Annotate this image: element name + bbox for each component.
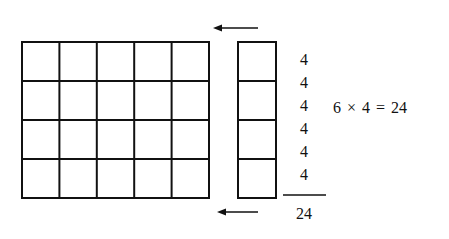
addend-value: 4 (300, 98, 308, 114)
addend-value: 4 (300, 121, 308, 137)
diagram-canvas (0, 0, 449, 239)
column-strip (238, 42, 276, 198)
equation: 6 × 4 = 24 (333, 100, 407, 116)
grid-5x4 (22, 42, 209, 198)
sum-value: 24 (296, 206, 312, 222)
top-arrow-icon (213, 25, 258, 32)
bottom-arrow-icon (217, 209, 258, 216)
addend-value: 4 (300, 144, 308, 160)
addend-value: 4 (300, 52, 308, 68)
addend-value: 4 (300, 75, 308, 91)
addend-value: 4 (300, 167, 308, 183)
